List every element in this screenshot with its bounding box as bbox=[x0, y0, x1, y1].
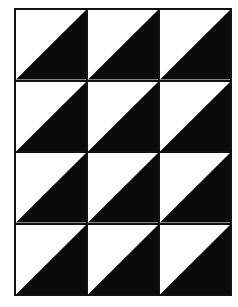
half-square-triangle-icon bbox=[88, 225, 158, 295]
half-square-triangle-icon bbox=[160, 82, 230, 152]
grid-cell-r2-c2 bbox=[87, 81, 159, 153]
half-square-triangle-icon bbox=[88, 82, 158, 152]
half-square-triangle-icon bbox=[16, 225, 86, 295]
grid-cell-r1-c3 bbox=[159, 9, 231, 81]
grid-cell-r4-c2 bbox=[87, 224, 159, 296]
grid-cell-r3-c1 bbox=[15, 152, 87, 224]
grid-cell-r2-c1 bbox=[15, 81, 87, 153]
grid-cell-r3-c3 bbox=[159, 152, 231, 224]
half-square-triangle-icon bbox=[160, 225, 230, 295]
grid-cell-r4-c1 bbox=[15, 224, 87, 296]
triangle-grid bbox=[15, 9, 231, 295]
grid-cell-r1-c1 bbox=[15, 9, 87, 81]
half-square-triangle-icon bbox=[160, 153, 230, 223]
triangle-grid-figure bbox=[14, 8, 232, 296]
grid-cell-r4-c3 bbox=[159, 224, 231, 296]
grid-cell-r1-c2 bbox=[87, 9, 159, 81]
half-square-triangle-icon bbox=[160, 10, 230, 80]
grid-cell-r3-c2 bbox=[87, 152, 159, 224]
half-square-triangle-icon bbox=[88, 153, 158, 223]
grid-cell-r2-c3 bbox=[159, 81, 231, 153]
half-square-triangle-icon bbox=[16, 82, 86, 152]
half-square-triangle-icon bbox=[16, 153, 86, 223]
half-square-triangle-icon bbox=[16, 10, 86, 80]
half-square-triangle-icon bbox=[88, 10, 158, 80]
